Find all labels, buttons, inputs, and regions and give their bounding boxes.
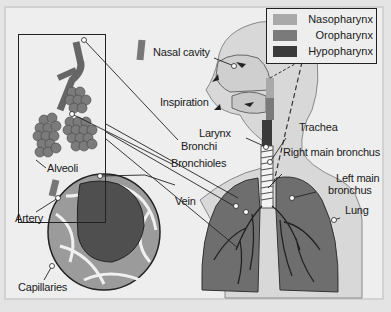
label-inspiration: Inspiration <box>160 96 209 108</box>
label-lung: Lung <box>345 204 369 216</box>
label-artery: Artery <box>15 212 43 224</box>
label-capillaries: Capillaries <box>18 281 67 293</box>
nasopharynx-region <box>266 78 274 98</box>
label-bronchioles: Bronchioles <box>171 157 226 169</box>
legend-item-nasopharynx: Nasopharynx <box>273 13 373 26</box>
trachea-shape <box>261 146 273 208</box>
legend-label: Nasopharynx <box>308 13 373 26</box>
label-alveoli: Alveoli <box>47 162 78 174</box>
hypopharynx-region <box>262 120 272 146</box>
legend-label: Hypopharynx <box>308 45 373 58</box>
label-vein: Vein <box>175 195 196 207</box>
legend-label: Oropharynx <box>316 29 373 42</box>
oral-cavity-shape <box>232 92 266 113</box>
label-bronchi: Bronchi <box>181 140 217 152</box>
legend-item-hypopharynx: Hypopharynx <box>273 45 373 58</box>
label-left-main-bronchus-line1: Left main <box>336 172 379 184</box>
label-right-main-bronchus: Right main bronchus <box>283 146 380 158</box>
label-trachea: Trachea <box>299 121 338 133</box>
legend-swatch <box>273 30 297 41</box>
label-larynx: Larynx <box>199 127 231 139</box>
legend: Nasopharynx Oropharynx Hypopharynx <box>266 8 377 64</box>
label-left-main-bronchus-line2: bronchus <box>328 184 372 196</box>
legend-swatch <box>273 46 297 57</box>
alveoli-inset-box <box>18 34 106 223</box>
oropharynx-region <box>266 98 274 120</box>
label-nasal-cavity: Nasal cavity <box>153 46 210 58</box>
legend-item-oropharynx: Oropharynx <box>273 29 373 42</box>
legend-swatch <box>273 14 297 25</box>
